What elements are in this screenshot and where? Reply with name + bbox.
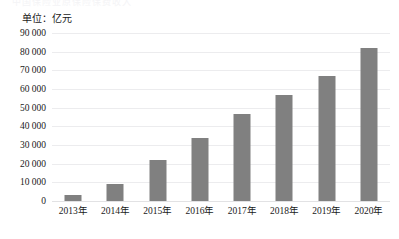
y-axis-tick-label: 10 000: [20, 177, 46, 187]
unit-label: 单位：亿元: [22, 13, 72, 25]
y-axis-tick-label: 70 000: [20, 65, 46, 75]
x-axis-tick-label: 2018年: [270, 205, 299, 217]
bar: [360, 48, 377, 201]
y-axis-tick-label: 20 000: [20, 159, 46, 169]
bar-slot: [263, 33, 305, 201]
bar-slot: [306, 33, 348, 201]
x-axis-tick-label: 2013年: [59, 205, 88, 217]
x-axis-tick-label: 2015年: [143, 205, 172, 217]
x-axis-tick-label: 2014年: [101, 205, 130, 217]
bar: [276, 95, 293, 201]
gridline: [52, 201, 390, 202]
y-axis-labels: 010 00020 00030 00040 00050 00060 00070 …: [0, 33, 50, 201]
bar: [107, 184, 124, 201]
bar-slot: [348, 33, 390, 201]
clipped-top-text: 中国保险业原保险保费收入: [12, 0, 132, 8]
bar: [65, 195, 82, 201]
x-axis-tick-label: 2017年: [228, 205, 257, 217]
y-axis-tick-label: 90 000: [20, 28, 46, 38]
y-axis-tick-label: 30 000: [20, 140, 46, 150]
plot-area: [52, 33, 390, 201]
x-axis-tick-label: 2016年: [185, 205, 214, 217]
y-axis-tick-label: 40 000: [20, 121, 46, 131]
bar-slot: [179, 33, 221, 201]
bar-slot: [137, 33, 179, 201]
x-axis-tick-label: 2020年: [354, 205, 383, 217]
bar: [191, 138, 208, 201]
y-axis-tick-label: 60 000: [20, 84, 46, 94]
chart-figure: 中国保险业原保险保费收入 单位：亿元 010 00020 00030 00040…: [0, 0, 399, 239]
bar: [234, 114, 251, 201]
bar-slot: [52, 33, 94, 201]
y-axis-tick-label: 0: [41, 196, 46, 206]
x-axis-tick-label: 2019年: [312, 205, 341, 217]
x-axis-labels: 2013年2014年2015年2016年2017年2018年2019年2020年: [52, 205, 390, 221]
bar-series: [52, 33, 390, 201]
bar: [149, 160, 166, 201]
bar-slot: [94, 33, 136, 201]
y-axis-tick-label: 50 000: [20, 103, 46, 113]
bar-slot: [221, 33, 263, 201]
bar: [318, 76, 335, 201]
y-axis-tick-label: 80 000: [20, 47, 46, 57]
